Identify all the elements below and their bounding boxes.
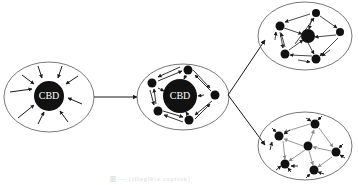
node [312, 55, 321, 64]
caption-text: 图 — (illegible caption) [110, 174, 191, 183]
node [336, 28, 344, 36]
branch-arrows [228, 40, 265, 145]
subcenter-node [148, 79, 157, 88]
stage-1-monocentric: CBD [4, 62, 94, 132]
subcenter-node [185, 116, 194, 125]
node [332, 148, 341, 157]
branch-arrow-up [228, 40, 265, 95]
subcenter-node [184, 66, 193, 75]
node [281, 160, 290, 169]
stage-2-cbd-with-subcenters: CBD [137, 64, 229, 130]
stage-3a-polycentric-dominant [258, 2, 352, 70]
node [312, 9, 320, 17]
cbd-evolution-diagram: CBD CBD [0, 0, 358, 185]
stage-3b-polycentric-equal [258, 112, 352, 180]
node [275, 132, 284, 141]
cbd-label: CBD [39, 90, 60, 101]
node [304, 142, 313, 151]
node [276, 22, 285, 31]
node [310, 166, 319, 175]
node [311, 120, 320, 129]
node [281, 50, 290, 59]
cbd-label: CBD [170, 90, 191, 101]
subcenter-node [154, 107, 163, 116]
subcenter-node [211, 91, 220, 100]
major-node [301, 29, 315, 43]
figure-caption: 图 — (illegible caption) [110, 174, 250, 182]
